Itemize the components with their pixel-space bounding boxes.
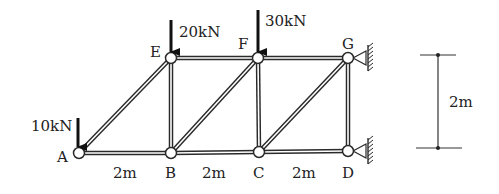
member-CG-inner <box>259 58 348 152</box>
truss-members <box>79 58 348 153</box>
support-G <box>353 43 373 71</box>
truss-diagram: 10kN 20kN 30kN A B C D E F G 2m 2m 2m 2m <box>0 0 499 194</box>
support-D <box>353 136 373 164</box>
member-AE-inner <box>79 58 171 153</box>
node-label-D: D <box>342 164 354 182</box>
node-D <box>343 146 354 157</box>
member-CD-inner <box>259 151 348 152</box>
node-label-G: G <box>342 35 354 53</box>
height-label: 2m <box>449 93 473 111</box>
span-label-CD: 2m <box>292 164 316 182</box>
node-F <box>253 53 264 64</box>
node-label-B: B <box>165 164 176 182</box>
member-CF-inner <box>258 58 259 152</box>
member-BC-inner <box>171 152 259 153</box>
node-label-C: C <box>253 164 264 182</box>
member-BF-inner <box>171 58 258 153</box>
node-C <box>254 147 265 158</box>
node-E <box>166 53 177 64</box>
node-G <box>343 53 354 64</box>
load-label-A: 10kN <box>31 117 72 135</box>
load-label-F: 30kN <box>265 12 306 30</box>
node-B <box>166 148 177 159</box>
height-dimension: 2m <box>416 53 473 150</box>
node-label-A: A <box>56 148 68 166</box>
span-label-BC: 2m <box>202 164 226 182</box>
span-label-AB: 2m <box>113 164 137 182</box>
node-label-F: F <box>238 35 248 53</box>
load-label-E: 20kN <box>179 23 220 41</box>
node-A <box>74 148 85 159</box>
node-label-E: E <box>150 43 161 61</box>
